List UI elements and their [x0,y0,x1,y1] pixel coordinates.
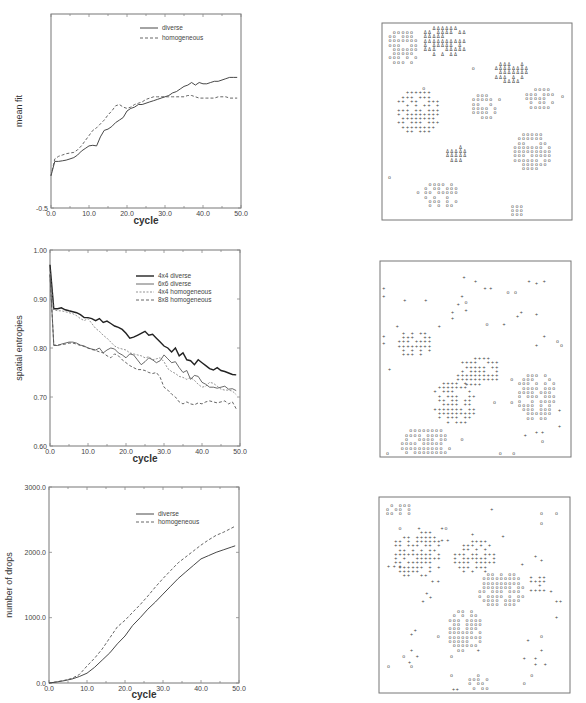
agent-circle-marker: o [513,588,516,594]
agent-circle-marker: o [435,449,438,455]
agent-circle-marker: o [504,584,507,590]
agent-circle-marker: o [409,432,412,438]
agent-circle-marker: o [513,157,516,163]
agent-circle-marker: o [518,402,521,408]
agent-circle-marker: o [441,181,444,187]
agent-points: oooooooooooo++++++++++++++++++++++++++++… [386,502,562,693]
agent-triangle-marker: Δ [508,69,511,75]
legend: 4x4 diverse6x6 diverse4x4 homogeneous8x8… [136,272,212,304]
agent-circle-marker: o [410,663,413,669]
agent-plus-marker: + [461,359,464,365]
agent-plus-marker: + [484,538,487,544]
series-line-homogeneous [51,96,237,176]
agent-circle-marker: o [551,99,554,105]
agent-circle-marker: o [466,642,469,648]
agent-triangle-marker: Δ [455,157,458,163]
x-tick-label: 50.0 [234,210,248,217]
agent-circle-marker: o [399,510,402,516]
agent-plus-marker: + [446,393,449,399]
x-tick-label: 50.0 [232,685,246,692]
agent-circle-marker: o [540,510,543,516]
agent-plus-marker: + [471,531,474,537]
agent-plus-marker: + [433,555,436,561]
agent-circle-marker: o [422,449,425,455]
x-tick-label: 10.0 [80,685,94,692]
legend-label: homogeneous [158,518,200,526]
agent-triangle-marker: Δ [424,46,427,52]
agent-plus-marker: + [523,655,526,661]
legend-label: diverse [158,510,179,517]
agent-circle-marker: o [485,676,488,682]
agent-circle-marker: o [551,91,554,97]
agent-plus-marker: + [467,546,470,552]
agent-plus-marker: + [488,559,491,565]
agent-circle-marker: o [544,372,547,378]
agent-triangle-marker: Δ [525,69,528,75]
x-tick-label: 30.0 [158,210,172,217]
agent-circle-marker: o [444,436,447,442]
agent-plus-marker: + [428,347,431,353]
agent-circle-marker: o [414,449,417,455]
agent-plus-marker: + [502,533,505,539]
agent-circle-marker: o [556,338,559,344]
series-line-4x4-diverse [50,265,236,375]
agent-plus-marker: + [457,301,460,307]
agent-plus-marker: + [540,557,543,563]
agent-triangle-marker: Δ [450,157,453,163]
agent-plus-marker: + [464,419,467,425]
agent-plus-marker: + [402,351,405,357]
agent-circle-marker: o [543,140,546,146]
agent-plus-marker: + [535,311,538,317]
agent-plus-marker: + [420,572,423,578]
agent-circle-marker: o [401,50,404,56]
agent-plus-marker: + [503,321,506,327]
agent-circle-marker: o [388,174,391,180]
agent-circle-marker: o [478,621,481,627]
agent-plus-marker: + [459,410,462,416]
agent-circle-marker: o [405,449,408,455]
agent-plus-marker: + [451,414,454,420]
y-tick-labels: -0.5 [36,205,48,212]
agent-plus-marker: + [397,111,400,117]
agent-plus-marker: + [487,376,490,382]
agent-plus-marker: + [436,111,439,117]
agent-circle-marker: o [491,601,494,607]
agent-plus-marker: + [464,307,467,313]
agent-circle-marker: o [531,135,534,141]
agent-circle-marker: o [386,510,389,516]
y-tick-label: 0.0 [36,680,46,687]
agent-plus-marker: + [406,115,409,121]
agent-plus-marker: + [407,572,410,578]
agent-triangle-marker: Δ [458,46,461,52]
x-tick-label: 50.0 [233,448,247,455]
agent-plus-marker: + [527,278,530,284]
agent-circle-marker: o [461,612,464,618]
agent-plus-marker: + [482,355,485,361]
agent-triangle-marker: Δ [463,152,466,158]
spatial-panel-1: oooooooooooooooooooooooooooooooooooooooo… [382,23,572,220]
y-axis-label: number of drops [4,552,14,618]
legend-label: 8x8 homogeneous [158,296,212,304]
agent-plus-marker: + [520,309,523,315]
agent-circle-marker: o [494,109,497,115]
agent-circle-marker: o [538,104,541,110]
agent-circle-marker: o [457,647,460,653]
legend-item: homogeneous [140,34,204,42]
agent-triangle-marker: Δ [454,51,457,57]
agent-plus-marker: + [458,551,461,557]
agent-circle-marker: o [429,202,432,208]
x-tick-label: 40.0 [196,210,210,217]
agent-plus-marker: + [455,419,458,425]
agent-plus-marker: + [388,366,391,372]
x-tick-label: 40.0 [194,685,208,692]
agent-circle-marker: o [388,54,391,60]
agent-plus-marker: + [438,384,441,390]
agent-circle-marker: o [535,135,538,141]
agent-plus-marker: + [491,376,494,382]
agent-plus-marker: + [455,384,458,390]
agent-plus-marker: + [491,364,494,370]
agent-plus-marker: + [424,572,427,578]
agent-plus-marker: + [474,278,477,284]
agent-plus-marker: + [398,563,401,569]
agent-plus-marker: + [407,542,410,548]
